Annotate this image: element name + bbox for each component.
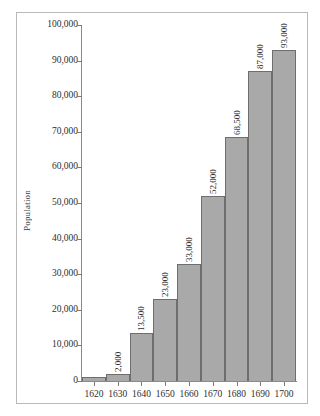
x-axis-tick-label: 1620 xyxy=(84,389,103,399)
x-axis-tick-mark xyxy=(260,382,261,386)
x-axis-tick-label: 1680 xyxy=(227,389,246,399)
bar-value-label: 2,000 xyxy=(113,332,123,372)
x-axis-tick-mark xyxy=(165,382,166,386)
bar-value-label: 23,000 xyxy=(160,257,170,297)
x-axis-tick-mark xyxy=(189,382,190,386)
y-axis-tick-mark xyxy=(77,381,82,382)
bar xyxy=(106,374,130,381)
bar-chart: Population 010,00020,00030,00040,00050,0… xyxy=(0,0,320,416)
y-axis-tick-label: 30,000 xyxy=(0,268,78,280)
x-axis-tick-mark xyxy=(141,382,142,386)
x-axis-tick-mark xyxy=(237,382,238,386)
x-axis-tick-label: 1700 xyxy=(275,389,294,399)
x-axis-tick-mark xyxy=(213,382,214,386)
bar-value-label: 68,500 xyxy=(232,95,242,135)
y-axis-tick-label: 90,000 xyxy=(0,55,78,67)
bar-value-label: 87,000 xyxy=(255,29,265,69)
x-axis-tick-label: 1690 xyxy=(251,389,270,399)
bar xyxy=(201,196,225,381)
x-axis-tick-label: 1650 xyxy=(156,389,175,399)
y-axis-tick-label: 100,000 xyxy=(0,19,78,31)
bar xyxy=(225,137,249,381)
y-axis-tick-label: 0 xyxy=(0,375,78,387)
y-axis-tick-label: 50,000 xyxy=(0,197,78,209)
y-axis-label: Population xyxy=(22,160,36,260)
bar xyxy=(248,71,272,381)
x-axis-tick-label: 1630 xyxy=(108,389,127,399)
bar xyxy=(82,377,106,381)
y-axis-tick-label: 80,000 xyxy=(0,90,78,102)
bar xyxy=(130,333,154,381)
bar xyxy=(153,299,177,381)
y-axis-tick-label: 60,000 xyxy=(0,161,78,173)
plot-area xyxy=(82,25,296,381)
bar xyxy=(272,50,296,381)
bar-value-label: 13,500 xyxy=(136,291,146,331)
x-axis-tick-mark xyxy=(284,382,285,386)
y-axis-tick-label: 70,000 xyxy=(0,126,78,138)
bar xyxy=(177,264,201,381)
y-axis-tick-label: 20,000 xyxy=(0,304,78,316)
x-axis-tick-label: 1670 xyxy=(203,389,222,399)
bar-value-label: 52,000 xyxy=(208,154,218,194)
x-axis-tick-mark xyxy=(118,382,119,386)
x-axis-tick-label: 1640 xyxy=(132,389,151,399)
bar-value-label: 33,000 xyxy=(184,222,194,262)
x-axis-tick-label: 1660 xyxy=(180,389,199,399)
y-axis-tick-label: 40,000 xyxy=(0,233,78,245)
x-axis-tick-mark xyxy=(94,382,95,386)
bar-value-label: 93,000 xyxy=(279,8,289,48)
y-axis-tick-label: 10,000 xyxy=(0,339,78,351)
